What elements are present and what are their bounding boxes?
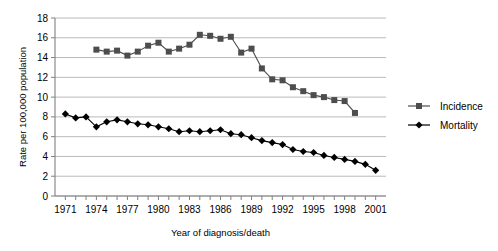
data-point-marker [165,125,172,132]
data-point-marker [269,139,276,146]
data-point-marker [372,167,379,174]
data-point-marker [248,134,255,141]
data-point-marker [135,49,141,55]
data-point-marker [258,137,265,144]
x-tick-label: 1986 [209,204,232,215]
data-point-marker [227,130,234,137]
chart-container: 0246810121416181971197419771980198319861… [0,0,498,251]
series-line [65,114,375,170]
data-point-marker [218,36,224,42]
data-point-marker [416,103,422,109]
data-point-marker [207,33,213,39]
data-point-marker [197,32,203,38]
legend-label-mortality: Mortality [440,120,478,131]
data-point-marker [145,43,151,49]
y-tick-label: 12 [37,72,49,83]
data-point-marker [196,128,203,135]
y-axis-title: Rate per 100,000 population [17,47,28,167]
axes [55,18,386,196]
data-point-marker [249,46,255,52]
x-tick-label: 1971 [54,204,77,215]
y-tick-label: 14 [37,52,49,63]
data-point-marker [269,76,275,82]
data-point-marker [300,88,306,94]
y-tick-label: 4 [42,151,48,162]
data-point-marker [321,94,327,100]
series-incidence [93,32,358,116]
data-point-marker [62,110,69,117]
x-tick-label: 1977 [116,204,139,215]
data-point-marker [186,127,193,134]
x-ticks: 1971197419771980198319861989199219951998… [54,196,387,215]
data-point-marker [352,110,358,116]
x-tick-label: 1983 [178,204,201,215]
legend-label-incidence: Incidence [440,101,483,112]
data-point-marker [238,50,244,56]
data-point-marker [289,146,296,153]
data-point-marker [238,131,245,138]
data-point-marker [342,98,348,104]
data-point-marker [362,161,369,168]
y-tick-label: 18 [37,13,49,24]
data-point-marker [124,118,131,125]
y-tick-label: 8 [42,111,48,122]
data-point-marker [114,48,120,54]
data-point-marker [72,114,79,121]
legend: IncidenceMortality [408,101,483,131]
data-point-marker [155,123,162,130]
x-tick-label: 1995 [302,204,325,215]
y-tick-label: 16 [37,32,49,43]
data-point-marker [341,156,348,163]
y-tick-label: 6 [42,131,48,142]
data-point-marker [176,128,183,135]
x-axis-title: Year of diagnosis/death [171,227,270,238]
x-tick-label: 1998 [334,204,357,215]
data-point-marker [310,149,317,156]
data-point-marker [124,53,130,59]
data-point-marker [331,97,337,103]
data-point-marker [166,49,172,55]
data-point-marker [207,127,214,134]
data-point-marker [186,42,192,48]
y-tick-label: 2 [42,171,48,182]
data-point-marker [104,49,110,55]
data-point-marker [155,40,161,46]
data-point-marker [311,92,317,98]
data-point-marker [113,116,120,123]
x-tick-label: 1980 [147,204,170,215]
data-point-marker [290,84,296,90]
series-line [96,35,355,113]
data-point-marker [176,46,182,52]
data-point-marker [415,121,422,128]
x-tick-label: 1974 [85,204,108,215]
data-point-marker [134,120,141,127]
data-point-marker [280,77,286,83]
data-point-marker [103,118,110,125]
series-mortality [62,110,380,174]
data-point-marker [320,152,327,159]
data-point-marker [228,34,234,40]
incidence-mortality-line-chart: 0246810121416181971197419771980198319861… [0,0,498,251]
data-point-marker [217,126,224,133]
x-tick-label: 2001 [365,204,388,215]
data-point-marker [259,65,265,71]
y-tick-label: 0 [42,191,48,202]
x-tick-label: 1989 [240,204,263,215]
gridlines: 024681012141618 [37,13,386,202]
data-point-marker [144,121,151,128]
data-point-marker [331,154,338,161]
y-tick-label: 10 [37,92,49,103]
data-point-marker [93,47,99,53]
data-point-marker [351,158,358,165]
data-point-marker [300,148,307,155]
data-point-marker [279,141,286,148]
x-tick-label: 1992 [271,204,294,215]
